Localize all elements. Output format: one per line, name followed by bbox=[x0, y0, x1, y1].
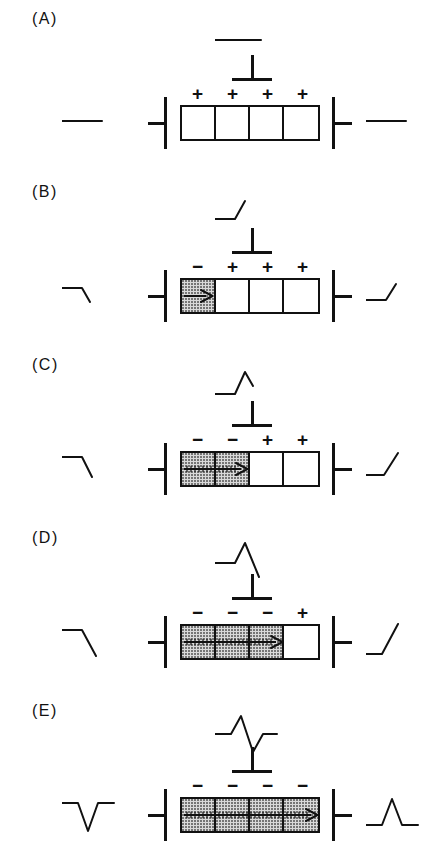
waveform-right-C bbox=[366, 447, 422, 491]
panel-label-C: (C) bbox=[32, 356, 59, 374]
cell-1[interactable] bbox=[182, 107, 216, 139]
electrode-bar bbox=[334, 814, 352, 817]
cell-4[interactable] bbox=[284, 107, 318, 139]
electrode-bar bbox=[232, 770, 272, 773]
polarity-sign: − bbox=[180, 604, 215, 622]
waveform-right-B bbox=[366, 274, 422, 318]
cell-2[interactable] bbox=[216, 280, 250, 312]
polarity-sign: − bbox=[250, 604, 285, 622]
panel-C: (C)−−++ bbox=[0, 346, 433, 519]
cell-4[interactable] bbox=[284, 280, 318, 312]
right-electrode[interactable] bbox=[332, 270, 352, 322]
polarity-sign: − bbox=[250, 777, 285, 795]
panel-label-B: (B) bbox=[32, 183, 58, 201]
fiber-A bbox=[180, 105, 320, 141]
panel-A: (A)++++ bbox=[0, 0, 433, 173]
center-recording-electrode[interactable] bbox=[232, 55, 272, 87]
electrode-bar bbox=[148, 122, 166, 125]
panel-label-D: (D) bbox=[32, 529, 59, 547]
polarity-sign: − bbox=[285, 777, 320, 795]
cell-3[interactable] bbox=[250, 453, 284, 485]
right-electrode[interactable] bbox=[332, 789, 352, 841]
panel-B: (B)−+++ bbox=[0, 173, 433, 346]
polarity-signs-A: ++++ bbox=[180, 85, 320, 103]
polarity-sign: − bbox=[215, 777, 250, 795]
electrode-bar bbox=[148, 814, 166, 817]
electrode-bar bbox=[334, 122, 352, 125]
electrode-stem bbox=[251, 55, 254, 79]
right-electrode[interactable] bbox=[332, 443, 352, 495]
electrode-bar bbox=[232, 251, 272, 254]
conduction-arrow bbox=[184, 633, 283, 651]
cell-4[interactable] bbox=[284, 453, 318, 485]
cell-4[interactable] bbox=[284, 626, 318, 658]
waveform-left-E bbox=[62, 793, 118, 837]
electrode-bar bbox=[334, 468, 352, 471]
polarity-sign: + bbox=[285, 431, 320, 449]
polarity-sign: + bbox=[215, 85, 250, 103]
polarity-sign: − bbox=[215, 604, 250, 622]
conduction-arrow bbox=[184, 287, 213, 305]
polarity-sign: + bbox=[250, 258, 285, 276]
electrode-bar bbox=[232, 597, 272, 600]
panel-label-E: (E) bbox=[32, 702, 58, 720]
right-electrode[interactable] bbox=[332, 616, 352, 668]
polarity-sign: + bbox=[285, 604, 320, 622]
electrode-stem bbox=[251, 228, 254, 252]
panel-E: (E)−−−− bbox=[0, 692, 433, 865]
cell-3[interactable] bbox=[250, 280, 284, 312]
waveform-left-A bbox=[62, 101, 118, 145]
left-electrode[interactable] bbox=[148, 270, 168, 322]
waveform-right-A bbox=[366, 101, 422, 145]
polarity-sign: + bbox=[180, 85, 215, 103]
waveform-right-E bbox=[366, 793, 422, 837]
left-electrode[interactable] bbox=[148, 789, 168, 841]
panel-D: (D)−−−+ bbox=[0, 519, 433, 692]
waveform-left-D bbox=[62, 620, 118, 664]
center-recording-electrode[interactable] bbox=[232, 401, 272, 433]
polarity-sign: − bbox=[180, 777, 215, 795]
polarity-sign: − bbox=[215, 431, 250, 449]
polarity-sign: + bbox=[250, 85, 285, 103]
electrode-bar bbox=[232, 78, 272, 81]
electrode-bar bbox=[148, 295, 166, 298]
cell-3[interactable] bbox=[250, 107, 284, 139]
polarity-sign: + bbox=[250, 431, 285, 449]
electrode-bar bbox=[148, 641, 166, 644]
polarity-signs-B: −+++ bbox=[180, 258, 320, 276]
electrode-stem bbox=[251, 574, 254, 598]
polarity-signs-E: −−−− bbox=[180, 777, 320, 795]
conduction-arrow bbox=[184, 806, 318, 824]
electrode-bar bbox=[334, 295, 352, 298]
center-recording-electrode[interactable] bbox=[232, 228, 272, 260]
left-electrode[interactable] bbox=[148, 443, 168, 495]
electrode-bar bbox=[334, 641, 352, 644]
right-electrode[interactable] bbox=[332, 97, 352, 149]
electrode-stem bbox=[251, 401, 254, 425]
polarity-sign: − bbox=[180, 258, 215, 276]
cell-2[interactable] bbox=[216, 107, 250, 139]
figure-root: (A)++++(B)−+++(C)−−++(D)−−−+(E)−−−− bbox=[0, 0, 433, 867]
waveform-left-B bbox=[62, 274, 118, 318]
electrode-bar bbox=[148, 468, 166, 471]
conduction-arrow bbox=[184, 460, 248, 478]
polarity-sign: + bbox=[285, 258, 320, 276]
polarity-sign: − bbox=[180, 431, 215, 449]
polarity-sign: + bbox=[285, 85, 320, 103]
polarity-signs-C: −−++ bbox=[180, 431, 320, 449]
center-recording-electrode[interactable] bbox=[232, 747, 272, 779]
electrode-bar bbox=[232, 424, 272, 427]
center-recording-electrode[interactable] bbox=[232, 574, 272, 606]
panel-label-A: (A) bbox=[32, 10, 58, 28]
polarity-signs-D: −−−+ bbox=[180, 604, 320, 622]
waveform-right-D bbox=[366, 620, 422, 664]
electrode-stem bbox=[251, 747, 254, 771]
waveform-left-C bbox=[62, 447, 118, 491]
polarity-sign: + bbox=[215, 258, 250, 276]
left-electrode[interactable] bbox=[148, 97, 168, 149]
left-electrode[interactable] bbox=[148, 616, 168, 668]
